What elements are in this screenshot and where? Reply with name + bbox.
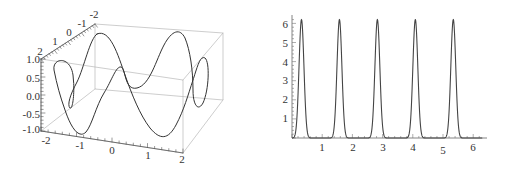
y-tick-label: 6 (283, 18, 289, 30)
y-tick-label: 0 (66, 26, 72, 38)
x-tick-label: 5 (440, 144, 446, 156)
y-tick-label: 3 (283, 74, 289, 86)
y-axis-labels: 2 1 0 -1 -2 (37, 8, 98, 57)
x-tick-label: -1 (75, 139, 84, 151)
z-tick-label: 0.5 (26, 72, 40, 84)
y-tick-label: -2 (89, 8, 98, 20)
peaks-curve (292, 20, 482, 138)
x-tick-label: 1 (145, 149, 151, 161)
y-tick-label: 1 (52, 35, 58, 47)
plot-2d: 1 2 3 4 5 6 1 2 3 4 5 6 (283, 15, 488, 156)
x-tick-label: 2 (350, 141, 356, 153)
x-axis-labels: -2 -1 0 1 2 (41, 134, 184, 165)
x-tick-label: 1 (319, 141, 325, 153)
y-tick-label: 5 (283, 37, 289, 49)
x-tick-label: 6 (470, 141, 476, 153)
x-tick-label: -2 (41, 134, 50, 146)
z-tick-label: -0.5 (23, 108, 41, 120)
z-axis-labels: 1.0 0.5 0.0 -0.5 -1.0 (23, 53, 41, 135)
bounding-box (41, 24, 223, 153)
x-axis-labels: 1 2 3 4 5 6 (319, 141, 476, 156)
curve-3d (54, 32, 208, 137)
y-tick-label: 2 (283, 93, 289, 105)
x-tick-label: 3 (380, 141, 386, 153)
figure: 1.0 0.5 0.0 -0.5 -1.0 -2 -1 0 1 2 2 1 0 … (0, 0, 506, 169)
z-tick-label: 0.0 (26, 90, 40, 102)
z-tick-label: -1.0 (23, 123, 41, 135)
x-tick-label: 2 (179, 153, 185, 165)
y-tick-label: -1 (77, 17, 86, 29)
axis-ticks (292, 20, 479, 138)
y-tick-label: 1 (283, 112, 289, 124)
y-tick-label: 2 (37, 45, 43, 57)
y-tick-label: 4 (283, 56, 289, 68)
y-axis-labels: 1 2 3 4 5 6 (283, 18, 289, 124)
x-tick-label: 0 (109, 144, 115, 156)
x-tick-label: 4 (410, 141, 416, 153)
plot-3d: 1.0 0.5 0.0 -0.5 -1.0 -2 -1 0 1 2 2 1 0 … (23, 8, 223, 165)
